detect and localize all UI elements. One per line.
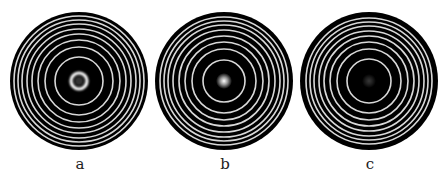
panel-label-a: a <box>76 157 85 172</box>
zone-plate-figure <box>0 0 447 180</box>
zone-plate-panel-b <box>155 12 293 150</box>
panel-label-c: c <box>366 157 374 172</box>
panel-label-b: b <box>220 157 230 172</box>
center-spot <box>216 73 232 89</box>
zone-plate-panel-c <box>300 12 438 150</box>
zone-plate-panel-a <box>10 12 148 150</box>
center-spot <box>362 74 376 88</box>
